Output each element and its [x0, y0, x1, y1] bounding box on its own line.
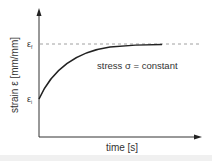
x-axis-arrow-icon	[194, 135, 202, 140]
tick-epsilon-f: εf	[27, 39, 33, 50]
y-axis-arrow-icon	[37, 8, 42, 16]
creep-diagram: εf εi strain ε [mm/mm] time [s] stress σ…	[0, 0, 212, 161]
x-axis-label: time [s]	[106, 142, 138, 153]
strain-curve	[39, 45, 162, 100]
stress-annotation: stress σ = constant	[97, 60, 178, 71]
tick-epsilon-i: εi	[27, 94, 32, 105]
y-axis-label: strain ε [mm/mm]	[9, 37, 20, 113]
